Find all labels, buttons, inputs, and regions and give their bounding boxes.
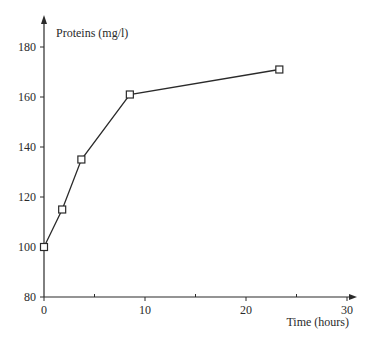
y-tick-label: 120 [18,190,36,204]
x-tick-label: 10 [139,303,151,317]
square-marker-icon [59,206,66,213]
y-tick-label: 180 [18,40,36,54]
x-axis-arrow-icon [349,294,357,300]
square-marker-icon [78,156,85,163]
y-tick-label: 80 [24,290,36,304]
x-axis-label: Time (hours) [286,315,349,329]
line-chart: 80100120140160180 0102030 Proteins (mg/l… [0,0,370,343]
y-tick-label: 100 [18,240,36,254]
square-marker-icon [276,66,283,73]
data-markers [41,66,283,251]
x-tick-label: 0 [41,303,47,317]
y-axis-label: Proteins (mg/l) [56,26,128,40]
square-marker-icon [126,91,133,98]
y-tick-label: 140 [18,140,36,154]
y-axis-arrow-icon [41,15,47,24]
x-tick-label: 20 [240,303,252,317]
square-marker-icon [41,244,48,251]
y-tick-label: 160 [18,90,36,104]
y-axis-ticks: 80100120140160180 [18,40,44,304]
